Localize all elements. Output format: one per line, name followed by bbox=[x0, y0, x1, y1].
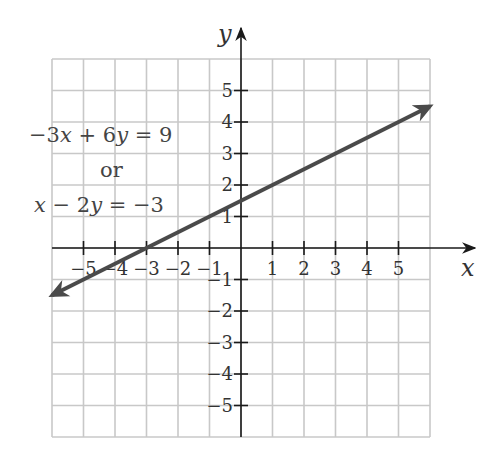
y-tick-label: −4 bbox=[206, 363, 233, 384]
y-tick-label: 5 bbox=[222, 80, 233, 101]
y-tick-label: −3 bbox=[206, 332, 233, 353]
y-tick-label: −5 bbox=[206, 395, 233, 416]
x-tick-label: 4 bbox=[361, 258, 372, 279]
x-tick-label: −3 bbox=[133, 258, 160, 279]
x-tick-label: 2 bbox=[298, 258, 309, 279]
equation-or: or bbox=[100, 158, 124, 182]
y-axis-label: y bbox=[217, 20, 232, 48]
x-tick-label: 3 bbox=[330, 258, 341, 279]
y-tick-label: 2 bbox=[222, 174, 233, 195]
y-tick-label: 4 bbox=[222, 111, 233, 132]
x-tick-label: 5 bbox=[393, 258, 404, 279]
y-tick-label: −2 bbox=[206, 300, 233, 321]
coordinate-plane: −5−4−3−2−112345−5−4−3−2−112345 x y −3x +… bbox=[0, 0, 497, 465]
equation-1: −3x + 6y = 9 bbox=[29, 123, 172, 147]
x-axis-label: x bbox=[461, 254, 475, 282]
equation-2: x − 2y = −3 bbox=[34, 193, 164, 217]
y-tick-label: 3 bbox=[222, 143, 233, 164]
y-tick-label: −1 bbox=[206, 269, 233, 290]
x-tick-label: −2 bbox=[165, 258, 192, 279]
equation-annotation: −3x + 6y = 9 or x − 2y = −3 bbox=[29, 123, 172, 217]
x-tick-label: 1 bbox=[267, 258, 278, 279]
